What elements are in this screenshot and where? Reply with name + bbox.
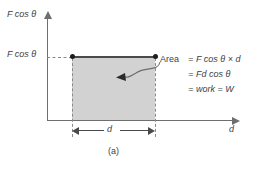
- left-endpoint-dot: [70, 54, 75, 59]
- annotation-equals-1: =: [186, 69, 196, 79]
- annotation-row: = Fd cos θ: [160, 69, 258, 84]
- y-axis-line: [47, 18, 48, 121]
- y-axis-arrowhead-icon: [44, 11, 52, 19]
- shaded-work-area: [72, 58, 155, 120]
- right-endpoint-dot: [153, 54, 158, 59]
- annotation-row: = work = W: [160, 84, 258, 99]
- horizontal-guide-dash: [47, 57, 72, 58]
- figure-caption: (a): [108, 146, 119, 156]
- distance-dimension-label: d: [107, 124, 112, 134]
- area-annotation-block: Area = F cos θ × d = Fd cos θ = work = W: [160, 54, 258, 99]
- dimension-left-arrowhead-icon: [72, 127, 79, 135]
- right-vertical-guide-dash: [155, 58, 156, 137]
- left-vertical-guide-dash: [72, 58, 73, 137]
- annotation-label: Area: [160, 54, 186, 64]
- annotation-row: Area = F cos θ × d: [160, 54, 258, 69]
- force-level-line: [72, 56, 155, 59]
- dimension-right-arrowhead-icon: [148, 127, 155, 135]
- annotation-value-2: work = W: [196, 84, 234, 94]
- force-vs-distance-figure: F cos θ F cos θ d d Area = F cos θ × d =…: [0, 0, 258, 170]
- x-axis-title: d: [229, 124, 234, 134]
- annotation-value-1: Fd cos θ: [196, 69, 230, 79]
- annotation-equals-0: =: [186, 54, 196, 64]
- y-axis-title: F cos θ: [7, 9, 36, 19]
- annotation-equals-2: =: [186, 84, 196, 94]
- annotation-value-0: F cos θ × d: [196, 54, 241, 64]
- x-axis-line: [47, 120, 233, 121]
- y-axis-tick-label: F cos θ: [7, 49, 36, 59]
